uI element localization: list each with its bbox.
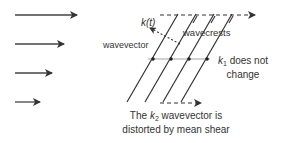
caption-line2: distorted by mean shear xyxy=(116,124,236,135)
caption-pre: The xyxy=(130,110,150,121)
caption: The k2 wavevector is distorted by mean s… xyxy=(116,110,236,135)
wavevector-label: wavevector xyxy=(103,40,149,51)
k1-text: does not xyxy=(227,55,268,66)
k1-label: k1 does not change xyxy=(213,55,273,80)
k1-text-line2: change xyxy=(213,69,273,80)
wavecrests-label: wavecrests xyxy=(183,27,231,38)
k-t-label: k(t) xyxy=(141,17,155,28)
wavevector-arrow xyxy=(150,28,180,44)
caption-post: wavevector is xyxy=(159,110,222,121)
shear-flow-arrows xyxy=(15,15,77,102)
